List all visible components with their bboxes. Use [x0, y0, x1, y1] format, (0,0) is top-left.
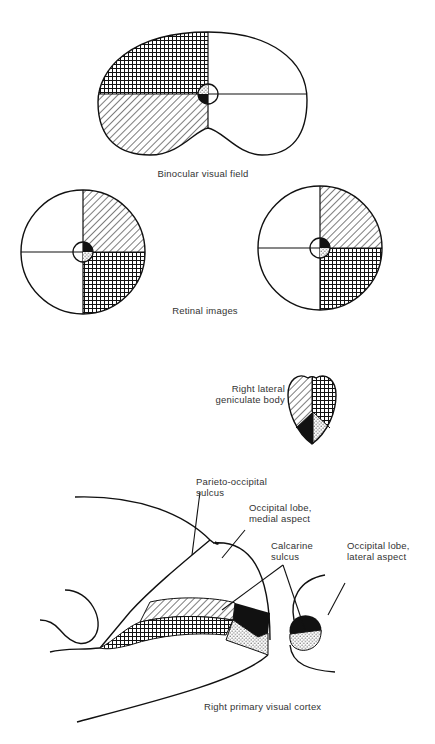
calcarine-bands — [100, 598, 270, 655]
label-medial-aspect-1: Occipital lobe, — [249, 502, 312, 513]
caption-retinal-images: Retinal images — [172, 305, 238, 316]
retinal-image-right — [258, 184, 384, 312]
label-calcarine-1: Calcarine — [271, 540, 313, 551]
figure-canvas — [0, 0, 435, 744]
label-lateral-aspect-1: Occipital lobe, — [347, 540, 410, 551]
lateral-geniculate-body — [285, 370, 340, 450]
label-medial-aspect-2: medial aspect — [249, 513, 310, 524]
caption-binocular-visual-field: Binocular visual field — [158, 168, 249, 179]
label-calcarine-2: sulcus — [271, 551, 299, 562]
occipital-lobe-lateral — [290, 575, 336, 672]
label-parieto-occipital-2: sulcus — [196, 487, 224, 498]
binocular-visual-field — [90, 25, 307, 164]
caption-primary-visual-cortex: Right primary visual cortex — [204, 701, 321, 712]
visual-pathway-figure: Binocular visual field Retinal images Ri… — [0, 0, 435, 744]
label-lateral-aspect-2: lateral aspect — [347, 551, 406, 562]
retinal-image-left — [21, 188, 147, 316]
label-lgn-line1: Right lateral — [232, 383, 285, 394]
label-parieto-occipital-1: Parieto-occipital — [196, 476, 267, 487]
label-lgn-line2: geniculate body — [215, 394, 285, 405]
